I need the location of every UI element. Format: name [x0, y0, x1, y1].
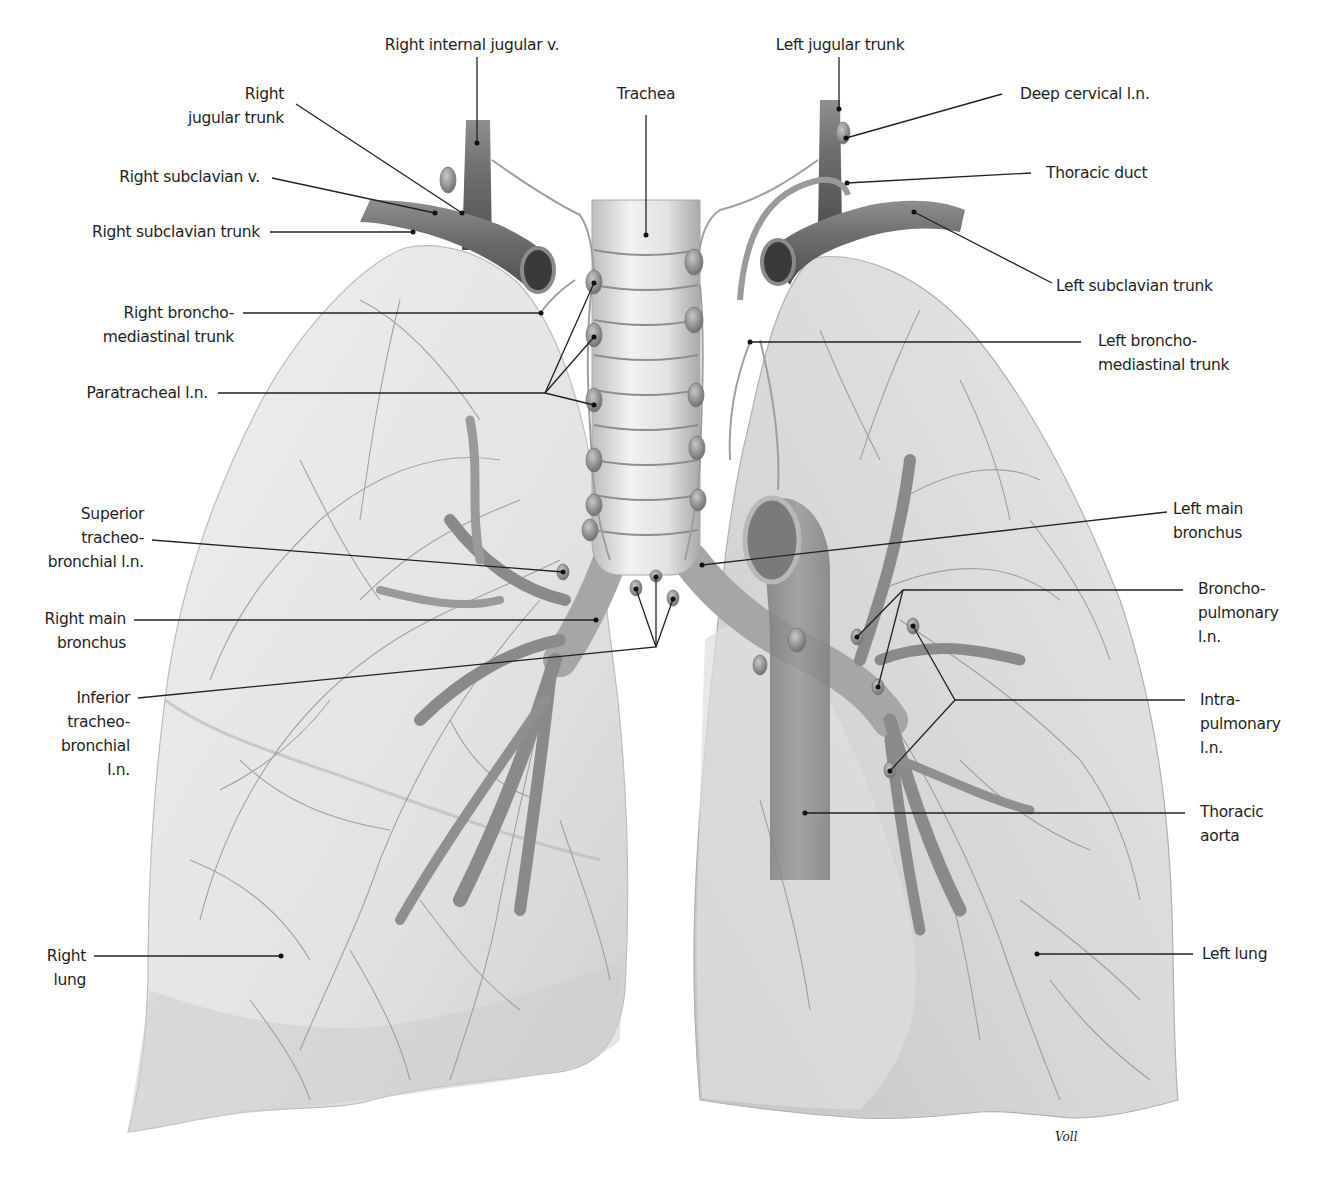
label-right-subclavian-trunk: Right subclavian trunk	[40, 220, 260, 244]
leader-right-jugular-trunk	[296, 104, 462, 213]
label-left-bronchomediastinal-trunk: Left broncho- mediastinal trunk	[1098, 329, 1308, 377]
label-left-main-bronchus: Left main bronchus	[1173, 497, 1313, 545]
leader-inferior-tracheobronchial-3	[656, 599, 673, 647]
label-thoracic-duct: Thoracic duct	[1046, 161, 1246, 185]
label-superior-tracheobronchial-ln: Superior tracheo- bronchial l.n.	[10, 502, 144, 574]
label-intrapulmonary-ln: Intra- pulmonary l.n.	[1200, 688, 1318, 760]
label-paratracheal-ln: Paratracheal l.n.	[40, 381, 208, 405]
artist-signature: Voll	[1055, 1130, 1077, 1144]
label-left-jugular-trunk: Left jugular trunk	[740, 33, 940, 57]
label-right-bronchomediastinal-trunk: Right broncho- mediastinal trunk	[40, 301, 234, 349]
leader-left-subclavian-trunk	[914, 212, 1052, 283]
label-deep-cervical-ln: Deep cervical l.n.	[1020, 82, 1220, 106]
label-right-jugular-trunk: Right jugular trunk	[150, 82, 284, 130]
label-inferior-tracheobronchial-ln: Inferior tracheo- bronchial l.n.	[10, 686, 130, 782]
label-left-subclavian-trunk: Left subclavian trunk	[1056, 274, 1286, 298]
label-bronchopulmonary-ln: Broncho- pulmonary l.n.	[1198, 577, 1316, 649]
label-right-internal-jugular-v: Right internal jugular v.	[372, 33, 572, 57]
label-right-subclavian-v: Right subclavian v.	[60, 165, 260, 189]
label-right-main-bronchus: Right main bronchus	[10, 607, 126, 655]
leader-right-subclavian-v	[272, 178, 435, 213]
label-trachea: Trachea	[596, 82, 696, 106]
trachea	[592, 200, 700, 575]
label-left-lung: Left lung	[1202, 942, 1312, 966]
label-right-lung: Right lung	[10, 944, 86, 992]
left-lung	[694, 257, 1178, 1119]
leader-thoracic-duct	[847, 173, 1031, 183]
label-thoracic-aorta: Thoracic aorta	[1200, 800, 1310, 848]
leader-deep-cervical-ln	[846, 94, 1002, 138]
